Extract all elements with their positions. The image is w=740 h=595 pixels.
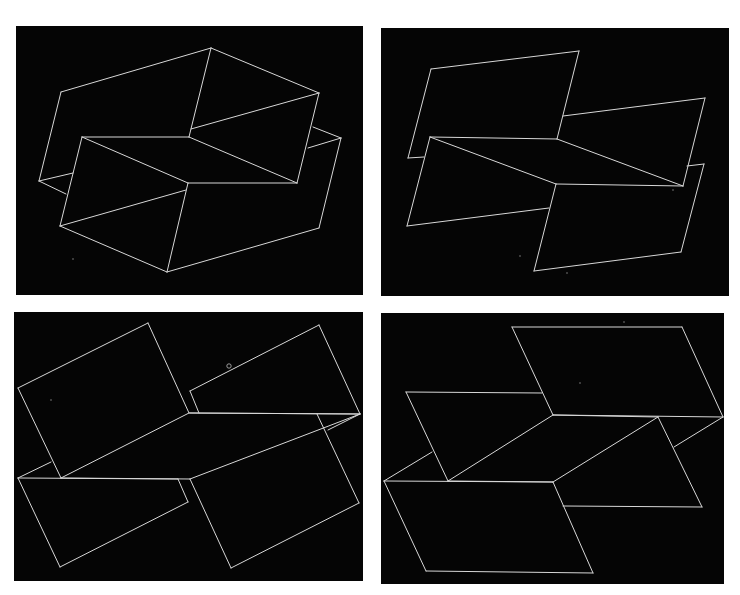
- drawing-top-left: [39, 48, 341, 272]
- drawing-bottom-right: [384, 321, 723, 573]
- drawing-top-right: [407, 51, 705, 274]
- drawing-bottom-left: [18, 323, 360, 568]
- line-drawing: [0, 0, 740, 595]
